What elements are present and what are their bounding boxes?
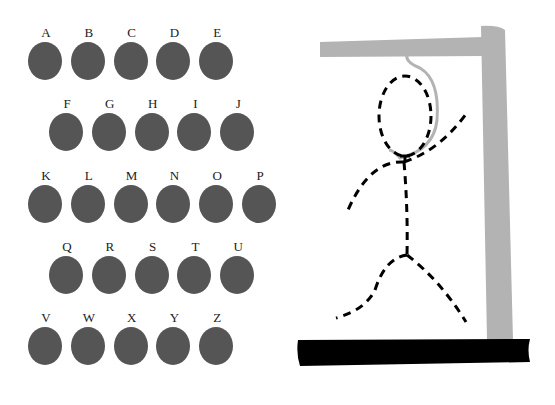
letter-key-c[interactable]: C (114, 26, 150, 80)
letter-button[interactable] (199, 327, 233, 365)
gallows-base (297, 339, 530, 366)
letter-key-i[interactable]: I (177, 97, 213, 151)
letter-label: G (92, 97, 128, 111)
letter-key-z[interactable]: Z (199, 311, 235, 365)
letter-key-w[interactable]: W (71, 311, 107, 365)
letter-button[interactable] (28, 327, 62, 365)
letter-label: B (71, 26, 107, 40)
letter-label: W (71, 311, 107, 325)
letter-label: Z (199, 311, 235, 325)
letter-key-f[interactable]: F (49, 97, 85, 151)
letter-key-q[interactable]: Q (49, 240, 85, 294)
letter-button[interactable] (71, 327, 105, 365)
letter-key-d[interactable]: D (156, 26, 192, 80)
letter-label: X (114, 311, 150, 325)
letter-label: P (242, 169, 278, 183)
letter-key-y[interactable]: Y (156, 311, 192, 365)
letter-button[interactable] (177, 113, 211, 151)
letter-label: U (220, 240, 256, 254)
letter-key-g[interactable]: G (92, 97, 128, 151)
letter-label: M (114, 169, 150, 183)
letter-label: I (177, 97, 213, 111)
letter-button[interactable] (199, 185, 233, 223)
letter-button[interactable] (114, 42, 148, 80)
letter-label: V (28, 311, 64, 325)
letter-key-x[interactable]: X (114, 311, 150, 365)
letter-button[interactable] (156, 42, 190, 80)
letter-button[interactable] (49, 113, 83, 151)
letter-button[interactable] (114, 327, 148, 365)
letter-key-n[interactable]: N (156, 169, 192, 223)
letter-label: J (220, 97, 256, 111)
letter-button[interactable] (71, 185, 105, 223)
letter-label: O (199, 169, 235, 183)
gallows-beam (320, 37, 485, 57)
letter-label: H (135, 97, 171, 111)
letter-key-h[interactable]: H (135, 97, 171, 151)
letter-key-m[interactable]: M (114, 169, 150, 223)
letter-key-t[interactable]: T (177, 240, 213, 294)
letter-key-l[interactable]: L (71, 169, 107, 223)
letter-button[interactable] (92, 256, 126, 294)
letter-label: Y (156, 311, 192, 325)
letter-button[interactable] (28, 185, 62, 223)
gallows-scene (290, 0, 555, 405)
letter-key-u[interactable]: U (220, 240, 256, 294)
letter-label: C (114, 26, 150, 40)
letter-button[interactable] (135, 256, 169, 294)
letter-label: L (71, 169, 107, 183)
letter-button[interactable] (156, 327, 190, 365)
letter-key-e[interactable]: E (199, 26, 235, 80)
letter-label: E (199, 26, 235, 40)
letter-label: F (49, 97, 85, 111)
letter-label: K (28, 169, 64, 183)
gallows-post (481, 26, 513, 340)
letter-button[interactable] (242, 185, 276, 223)
figure-body (404, 162, 407, 255)
letter-button[interactable] (135, 113, 169, 151)
letter-label: D (156, 26, 192, 40)
letter-button[interactable] (199, 42, 233, 80)
letter-button[interactable] (156, 185, 190, 223)
letter-button[interactable] (114, 185, 148, 223)
letter-key-p[interactable]: P (242, 169, 278, 223)
letter-label: A (28, 26, 64, 40)
letter-button[interactable] (49, 256, 83, 294)
letter-key-o[interactable]: O (199, 169, 235, 223)
letter-button[interactable] (71, 42, 105, 80)
letter-label: T (177, 240, 213, 254)
letter-keyboard: ABCDEFGHIJKLMNOPQRSTUVWXYZ (0, 0, 290, 405)
letter-key-a[interactable]: A (28, 26, 64, 80)
letter-key-v[interactable]: V (28, 311, 64, 365)
letter-button[interactable] (92, 113, 126, 151)
letter-key-k[interactable]: K (28, 169, 64, 223)
letter-button[interactable] (220, 256, 254, 294)
letter-button[interactable] (177, 256, 211, 294)
letter-button[interactable] (28, 42, 62, 80)
figure-left-arm (348, 162, 404, 210)
letter-label: Q (49, 240, 85, 254)
figure-right-leg (407, 255, 466, 322)
letter-label: N (156, 169, 192, 183)
letter-label: R (92, 240, 128, 254)
letter-label: S (135, 240, 171, 254)
letter-key-s[interactable]: S (135, 240, 171, 294)
letter-key-j[interactable]: J (220, 97, 256, 151)
letter-key-b[interactable]: B (71, 26, 107, 80)
figure-head (379, 76, 431, 156)
letter-key-r[interactable]: R (92, 240, 128, 294)
letter-button[interactable] (220, 113, 254, 151)
figure-left-leg (336, 255, 407, 318)
